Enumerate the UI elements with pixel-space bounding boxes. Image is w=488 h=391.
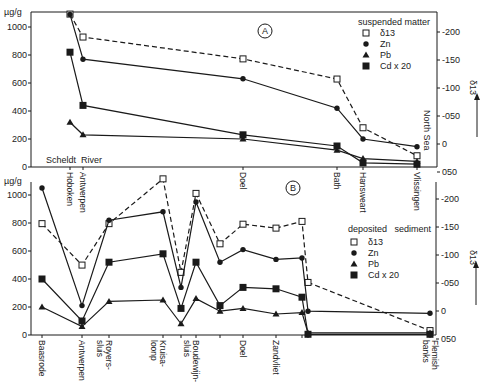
- 13-marker: [240, 221, 246, 227]
- x-tick-label: sluis: [182, 340, 192, 357]
- x-tick-label: Bath: [332, 172, 342, 190]
- panel-b-unit: µg/g: [4, 176, 22, 186]
- panel-a-unit: µg/g: [4, 7, 22, 17]
- pb-marker: [67, 119, 74, 125]
- cdx20-marker: [79, 318, 86, 325]
- y-tick-label: 400: [12, 106, 27, 116]
- zn-marker: [39, 185, 44, 190]
- legend-marker: [351, 272, 358, 279]
- x-tick-label: Hoboken: [65, 172, 75, 206]
- right-tick-label: -150: [441, 222, 459, 232]
- y-tick-label: 800: [12, 50, 27, 60]
- y-tick-label: 0: [22, 330, 27, 340]
- panel-b-circle-label: B: [290, 183, 296, 193]
- x-tick-label: Doel: [238, 172, 248, 190]
- cdx20-marker: [240, 131, 247, 138]
- zn-marker: [334, 106, 339, 111]
- cdx20-marker: [305, 331, 312, 338]
- right-tick-label: -200: [441, 194, 459, 204]
- 13-marker: [79, 262, 85, 268]
- cdx20-marker: [427, 331, 434, 338]
- legend-b-title: deposited sediment: [348, 224, 432, 234]
- zn-marker: [160, 209, 165, 214]
- zn-marker: [240, 247, 245, 252]
- x-tick-label: Antwerpen: [77, 340, 87, 381]
- cdx20-marker: [414, 161, 421, 168]
- cdx20-marker: [240, 284, 247, 291]
- cdx20-marker: [334, 143, 341, 150]
- legend-marker: [363, 41, 368, 46]
- zn-marker: [427, 311, 432, 316]
- panel-b: 02004006008001000-200-150-100-0500050δ13…: [7, 176, 479, 382]
- zn-marker: [193, 199, 198, 204]
- pb-marker: [193, 295, 200, 301]
- zn-marker: [240, 76, 245, 81]
- cdx20-marker: [273, 285, 280, 292]
- zn-marker: [299, 255, 304, 260]
- cdx20-marker: [299, 294, 306, 301]
- panel-a-circle-label: A: [262, 26, 268, 36]
- right-tick-label: 0: [441, 306, 446, 316]
- legend-label: Zn: [380, 39, 391, 49]
- legend-label: Zn: [368, 248, 379, 258]
- cdx20-marker: [193, 259, 200, 266]
- pb-marker: [39, 304, 46, 310]
- 13-marker: [273, 225, 279, 231]
- right-tick-label: 0: [442, 139, 447, 149]
- cdx20-marker: [39, 276, 46, 283]
- legend-marker: [351, 239, 357, 245]
- 13-marker: [414, 153, 420, 159]
- x-tick-label: Doel: [238, 340, 248, 358]
- y-tick-label: 400: [12, 274, 27, 284]
- 13-marker: [39, 221, 45, 227]
- cdx20-marker: [160, 250, 167, 257]
- cdx20-marker: [80, 102, 87, 109]
- right-tick-label: -100: [441, 250, 459, 260]
- zn-marker: [305, 309, 310, 314]
- 13-marker: [80, 34, 86, 40]
- right-tick-label: -050: [442, 111, 460, 121]
- 13-marker: [193, 190, 199, 196]
- x-tick-label: Antwerpen: [78, 172, 88, 213]
- 13-marker: [334, 76, 340, 82]
- legend-marker: [363, 63, 370, 70]
- x-tick-label: banks: [421, 340, 431, 363]
- right-tick-label: -150: [442, 55, 460, 65]
- cdx20-marker: [106, 259, 113, 266]
- x-tick-label: Hansweart: [358, 172, 368, 213]
- zn-marker: [414, 144, 419, 149]
- legend-label: δ13: [368, 237, 383, 247]
- legend-a-title: suspended matter: [358, 17, 430, 27]
- zn-marker: [67, 12, 72, 17]
- zn-marker: [273, 257, 278, 262]
- right-tick-label: -100: [442, 83, 460, 93]
- x-tick-label: loonp: [149, 340, 159, 361]
- legend-label: Cd x 20: [368, 270, 399, 280]
- series-line-pb: [42, 299, 430, 333]
- right-tick-label: 050: [441, 334, 456, 344]
- 13-marker: [217, 241, 223, 247]
- legend-marker: [363, 30, 369, 36]
- x-tick-label: Zandvliet: [271, 340, 281, 375]
- right-tick-label: -050: [441, 278, 459, 288]
- pb-marker: [240, 305, 247, 311]
- zn-marker: [79, 303, 84, 308]
- right-tick-label: -200: [442, 27, 460, 37]
- cdx20-marker: [178, 305, 185, 312]
- legend-label: Cd x 20: [380, 61, 411, 71]
- river-label: Scheldt River: [46, 155, 102, 165]
- right-axis-label-a: δ13: [468, 80, 478, 95]
- y-tick-label: 600: [12, 246, 27, 256]
- legend-label: Pb: [380, 50, 391, 60]
- legend-marker: [351, 261, 358, 267]
- x-tick-label: Baasrode: [37, 340, 47, 377]
- panel-a: 02004006008001000-200-150-100-0500050δ13…: [7, 11, 480, 213]
- legend-label: δ13: [380, 28, 395, 38]
- cdx20-marker: [217, 302, 224, 309]
- y-tick-label: 0: [22, 162, 27, 172]
- right-axis-label-b: δ13: [468, 250, 478, 265]
- 13-marker: [360, 125, 366, 131]
- cdx20-marker: [360, 159, 367, 166]
- y-tick-label: 200: [12, 134, 27, 144]
- y-tick-label: 1000: [7, 190, 27, 200]
